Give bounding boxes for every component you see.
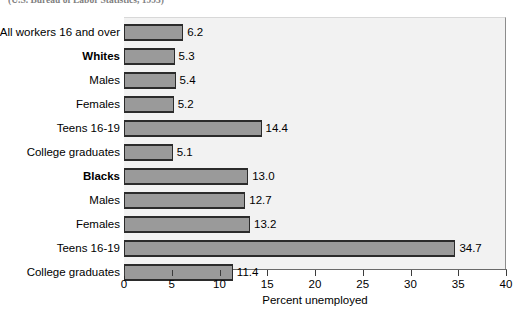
- bar-row: Females13.2: [0, 216, 524, 240]
- x-tick-label: 15: [247, 277, 287, 291]
- bar-value-label: 34.7: [459, 240, 481, 257]
- x-tick-mark: [363, 270, 364, 276]
- bar-row: Teens 16-1934.7: [0, 240, 524, 264]
- bar-category-label: Males: [0, 192, 120, 209]
- horizontal-bar-chart: All workers 16 and over6.2Whites5.3Males…: [0, 0, 524, 315]
- bar-row: Females5.2: [0, 96, 524, 120]
- bar-category-label: All workers 16 and over: [0, 24, 120, 41]
- bar-value-label: 5.2: [178, 96, 194, 113]
- bar: [124, 144, 173, 161]
- bar-value-label: 12.7: [249, 192, 271, 209]
- bar-row: Males12.7: [0, 192, 524, 216]
- bar: [124, 216, 250, 233]
- x-tick-mark: [458, 270, 459, 276]
- x-tick-label: 40: [486, 277, 524, 291]
- x-axis-title: Percent unemployed: [124, 293, 506, 307]
- x-tick-mark: [506, 270, 507, 276]
- bar-row: Whites5.3: [0, 48, 524, 72]
- x-tick-mark: [220, 270, 221, 276]
- bar-category-label: Teens 16-19: [0, 120, 120, 137]
- bar-value-label: 14.4: [266, 120, 288, 137]
- x-tick-label: 20: [295, 277, 335, 291]
- bar: [124, 168, 248, 185]
- bar-category-label: College graduates: [0, 264, 120, 281]
- bar-value-label: 13.0: [252, 168, 274, 185]
- x-tick-label: 30: [391, 277, 431, 291]
- bar: [124, 120, 262, 137]
- bar-category-label: Females: [0, 216, 120, 233]
- bar: [124, 48, 175, 65]
- bar: [124, 240, 455, 257]
- x-tick-label: 35: [438, 277, 478, 291]
- x-tick-label: 25: [343, 277, 383, 291]
- bar: [124, 24, 183, 41]
- bar-category-label: Males: [0, 72, 120, 89]
- bar: [124, 192, 245, 209]
- bar-value-label: 5.1: [177, 144, 193, 161]
- bar-value-label: 13.2: [254, 216, 276, 233]
- bar-row: Blacks13.0: [0, 168, 524, 192]
- x-tick-mark: [267, 270, 268, 276]
- bar-category-label: Blacks: [0, 168, 120, 185]
- bar: [124, 72, 176, 89]
- bar-row: Teens 16-1914.4: [0, 120, 524, 144]
- x-tick-mark: [315, 270, 316, 276]
- bar-value-label: 5.4: [180, 72, 196, 89]
- x-tick-label: 5: [152, 277, 192, 291]
- bar-value-label: 6.2: [187, 24, 203, 41]
- bar-category-label: Teens 16-19: [0, 240, 120, 257]
- bar-row: Males5.4: [0, 72, 524, 96]
- x-tick-label: 10: [200, 277, 240, 291]
- x-tick-mark: [124, 270, 125, 276]
- bar: [124, 96, 174, 113]
- bar-category-label: College graduates: [0, 144, 120, 161]
- x-tick-mark: [411, 270, 412, 276]
- x-tick-label: 0: [104, 277, 144, 291]
- bar-row: All workers 16 and over6.2: [0, 24, 524, 48]
- bar-category-label: Whites: [0, 48, 120, 65]
- bar-row: College graduates5.1: [0, 144, 524, 168]
- bar-value-label: 5.3: [179, 48, 195, 65]
- bar-category-label: Females: [0, 96, 120, 113]
- x-tick-mark: [172, 270, 173, 276]
